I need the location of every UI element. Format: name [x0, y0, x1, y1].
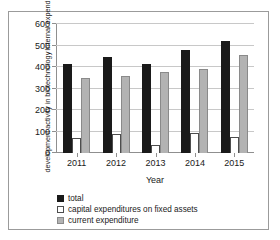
legend-item[interactable]: total: [57, 194, 198, 203]
bar-group: 2014: [175, 24, 214, 153]
bar-current: [199, 69, 208, 153]
y-axis-tick: [52, 23, 56, 24]
plot-area: 0100200300400500600 20112012201320142015: [56, 24, 254, 153]
x-axis-tick-label: 2013: [136, 158, 175, 168]
bar-current: [239, 55, 248, 153]
x-axis-tick-label: 2014: [175, 158, 214, 168]
bar-current: [81, 78, 90, 153]
x-axis-tick: [234, 153, 235, 157]
y-axis-tick: [52, 152, 56, 153]
bar-total: [142, 64, 151, 153]
x-axis-tick: [195, 153, 196, 157]
bar-total: [63, 64, 72, 153]
y-axis-tick: [52, 131, 56, 132]
x-axis-tick: [116, 153, 117, 157]
legend-label: current expenditure: [68, 216, 139, 225]
bar-group: 2013: [136, 24, 175, 153]
y-axis-tick: [52, 45, 56, 46]
y-axis-tick: [52, 109, 56, 110]
bar-capital: [151, 145, 160, 153]
bar-groups: 20112012201320142015: [57, 24, 254, 153]
x-axis-tick-label: 2011: [57, 158, 96, 168]
bar-group: 2011: [57, 24, 96, 153]
bar-group: 2015: [215, 24, 254, 153]
y-axis-tick: [52, 66, 56, 67]
bar-capital: [112, 134, 121, 153]
legend-label: total: [68, 194, 83, 203]
bar-current: [121, 76, 130, 153]
y-axis-tick-label: 600: [35, 19, 50, 29]
bar-total: [181, 50, 190, 153]
chart-frame: development activity in biotechnology In…: [8, 11, 269, 230]
y-axis-tick-label: 500: [35, 41, 50, 51]
y-axis-tick-label: 200: [35, 105, 50, 115]
legend-swatch-current: [57, 217, 64, 224]
y-axis-tick-label: 100: [35, 127, 50, 137]
y-axis-tick-label: 400: [35, 62, 50, 72]
legend-item[interactable]: capital expenditures on fixed assets: [57, 205, 198, 214]
bar-capital: [190, 133, 199, 153]
bar-total: [221, 41, 230, 153]
bar-capital: [230, 137, 239, 153]
y-axis-tick: [52, 88, 56, 89]
legend-item[interactable]: current expenditure: [57, 216, 198, 225]
legend: totalcapital expenditures on fixed asset…: [57, 194, 198, 225]
bar-total: [103, 57, 112, 153]
x-axis-tick-label: 2012: [96, 158, 135, 168]
bar-capital: [72, 138, 81, 153]
x-axis-title: Year: [56, 175, 254, 185]
y-axis-tick-label: 300: [35, 84, 50, 94]
y-axis-tick-label: 0: [45, 148, 50, 158]
bar-current: [160, 72, 169, 153]
x-axis-tick: [77, 153, 78, 157]
x-axis-tick-label: 2015: [215, 158, 254, 168]
legend-swatch-capital: [57, 206, 64, 213]
legend-swatch-total: [57, 195, 64, 202]
x-axis-tick: [156, 153, 157, 157]
bar-group: 2012: [96, 24, 135, 153]
legend-label: capital expenditures on fixed assets: [68, 205, 198, 214]
